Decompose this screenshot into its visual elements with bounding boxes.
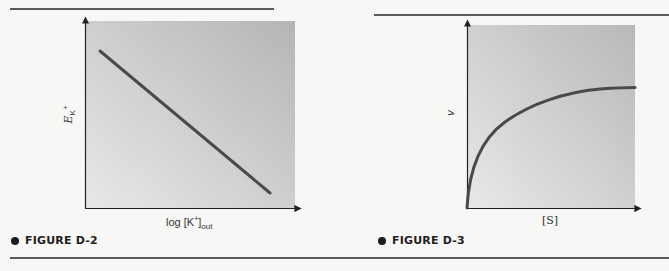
plot-panel (468, 25, 635, 208)
y-label-text: v (444, 110, 456, 116)
figure-d3: v [S] FIGURE D-3 (0, 0, 669, 271)
x-label-text: [S] (542, 214, 558, 227)
y-axis-label: v (444, 103, 456, 123)
figure-d3-plot (0, 0, 669, 271)
bullet-icon (378, 237, 386, 245)
caption-text: FIGURE D-3 (392, 234, 465, 247)
x-axis-label: [S] (542, 214, 558, 227)
figure-caption: FIGURE D-3 (378, 234, 465, 247)
